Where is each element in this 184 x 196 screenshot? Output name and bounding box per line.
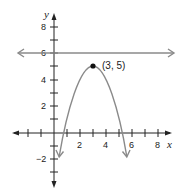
y-axis-label: y [43, 8, 49, 20]
y-tick-label: −2 [36, 154, 46, 164]
vertex-point [90, 63, 95, 68]
x-tick-label: 8 [155, 140, 160, 150]
y-tick-label: 4 [41, 75, 46, 85]
x-axis [12, 129, 172, 137]
x-tick-label: 4 [103, 140, 108, 150]
x-tick-label: 2 [77, 140, 82, 150]
y-tick-label: 8 [41, 22, 46, 32]
vertex-label: (3, 5) [102, 60, 125, 71]
parabola [56, 66, 130, 157]
y-tick-label: 2 [41, 101, 46, 111]
x-axis-label: x [166, 138, 172, 150]
graph: 2 4 6 8 8 6 4 2 −2 y x (3, 5) [0, 0, 184, 196]
x-tick-label: 6 [129, 140, 134, 150]
y-axis [50, 13, 58, 188]
